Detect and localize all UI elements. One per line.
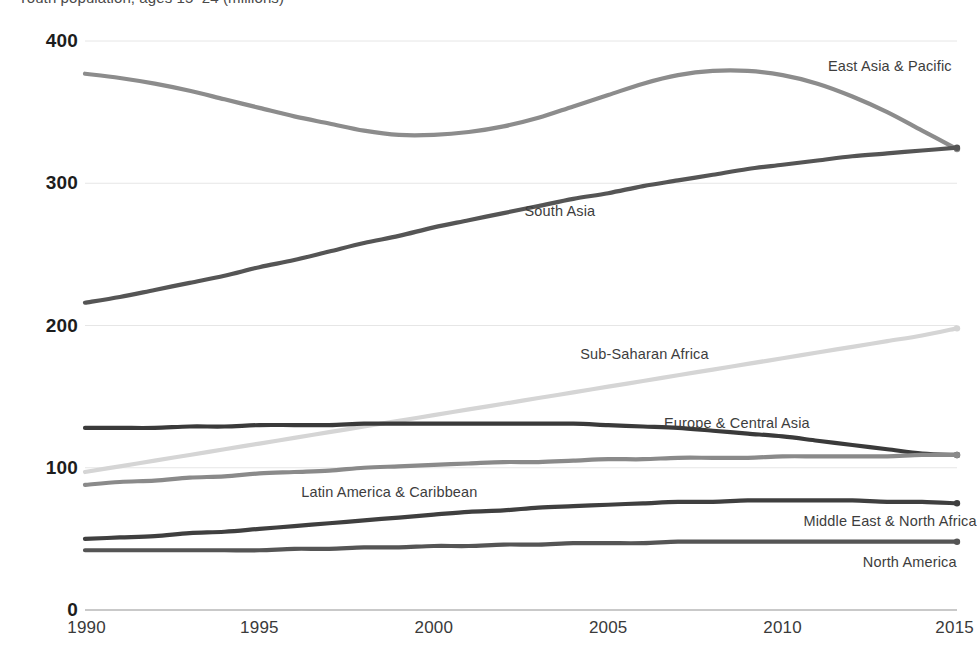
series-label-sub-saharan-africa: Sub-Saharan Africa (580, 346, 708, 362)
series-line[interactable] (85, 148, 957, 303)
series-label-south-asia: South Asia (524, 203, 595, 219)
series-line[interactable] (85, 328, 957, 472)
series-endpoint-marker (954, 452, 960, 458)
series-label-east-asia-pacific: East Asia & Pacific (828, 58, 952, 74)
series-endpoint-marker (954, 144, 960, 150)
series-line[interactable] (85, 70, 957, 149)
series-label-latin-america-caribbean: Latin America & Caribbean (301, 484, 477, 500)
series-endpoint-marker (954, 500, 960, 506)
x-axis-tick-label: 2000 (414, 618, 453, 638)
x-axis-tick-label: 2005 (589, 618, 628, 638)
series-line[interactable] (85, 455, 957, 485)
x-axis-tick-label: 2015 (935, 618, 974, 638)
series-line[interactable] (85, 542, 957, 551)
series-label-north-america: North America (863, 554, 957, 570)
x-axis-tick-label: 1995 (240, 618, 279, 638)
series-endpoint-marker (954, 325, 960, 331)
series-label-europe-central-asia: Europe & Central Asia (664, 415, 810, 431)
x-axis-tick-label: 2010 (763, 618, 802, 638)
series-label-middle-east-north-africa: Middle East & North Africa (804, 513, 977, 529)
x-axis-tick-label: 1990 (67, 618, 106, 638)
series-endpoint-marker (954, 539, 960, 545)
